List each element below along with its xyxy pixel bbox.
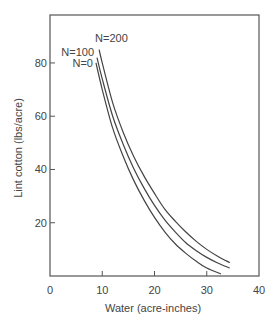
x-tick-label: 30 (201, 284, 213, 296)
x-tick-label: 40 (253, 284, 265, 296)
series-line-n-100 (97, 58, 230, 268)
y-tick-label: 20 (35, 217, 47, 229)
series-line-n-0 (96, 63, 221, 274)
axis-ticks: 01020304020406080 (35, 57, 265, 296)
y-tick-label: 60 (35, 110, 47, 122)
series-label: N=200 (95, 32, 128, 44)
y-tick-label: 40 (35, 163, 47, 175)
series-labels: N=0N=100N=200 (61, 32, 128, 69)
x-axis-title: Water (acre-inches) (105, 302, 201, 314)
y-tick-label: 80 (35, 57, 47, 69)
x-tick-label: 20 (148, 284, 160, 296)
y-axis-title: Lint cotton (lbs/acre) (12, 98, 24, 198)
x-tick-label: 0 (47, 284, 53, 296)
series-label: N=0 (72, 57, 93, 69)
line-chart: 01020304020406080 N=0N=100N=200 Water (a… (0, 0, 277, 325)
series-curves (96, 50, 230, 274)
x-tick-label: 10 (96, 284, 108, 296)
series-label: N=100 (61, 46, 94, 58)
